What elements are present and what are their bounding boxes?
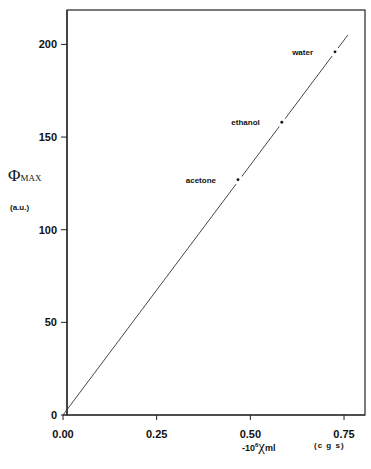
y-tick-label: 200 <box>39 38 57 50</box>
y-tick-label: 100 <box>39 224 57 236</box>
chart: 0.000.250.500.75050100150200 acetoneetha… <box>0 0 371 469</box>
point-label-water: water <box>291 48 313 57</box>
data-point-ethanol <box>280 121 283 124</box>
y-tick-label: 50 <box>45 316 57 328</box>
data-point-acetone <box>237 178 240 181</box>
x-axis-label: -106χml <box>242 438 276 455</box>
data-point-water <box>334 50 337 53</box>
x-tick-label: 0.75 <box>333 428 354 440</box>
point-label-acetone: acetone <box>186 176 217 185</box>
data-points: acetoneethanolwater <box>186 47 340 185</box>
y-tick-label: 150 <box>39 131 57 143</box>
y-axis-units: (a.u.) <box>10 203 29 212</box>
x-tick-label: 0.00 <box>52 428 73 440</box>
plot-border <box>67 10 365 415</box>
x-axis-subscript: ml <box>265 443 276 453</box>
fit-line <box>63 35 348 415</box>
x-axis-units: (c g s) <box>314 441 345 450</box>
x-tick-label: 0.25 <box>146 428 167 440</box>
y-axis-subscript: MAX <box>20 173 41 183</box>
point-label-ethanol: ethanol <box>231 118 259 127</box>
y-axis-label: ΦMAX <box>8 166 41 186</box>
axis-ticks: 0.000.250.500.75050100150200 <box>39 38 355 440</box>
y-tick-label: 0 <box>51 409 57 421</box>
x-axis-prefix: -10 <box>242 443 255 453</box>
phi-symbol: Φ <box>8 166 20 186</box>
regression-line <box>63 35 348 415</box>
